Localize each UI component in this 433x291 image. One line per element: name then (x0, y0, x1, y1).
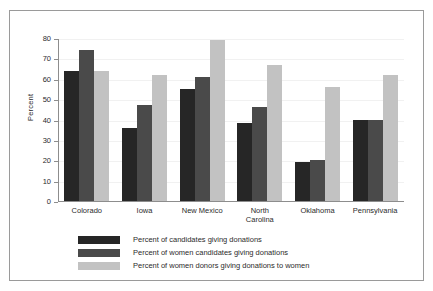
legend-label: Percent of women donors giving donations… (133, 262, 309, 270)
bar[interactable] (180, 89, 195, 201)
legend-item[interactable]: Percent of women donors giving donations… (78, 259, 309, 272)
bar-group: Iowa (116, 38, 174, 201)
legend-label: Percent of women candidates giving donat… (133, 249, 288, 257)
bar[interactable] (267, 65, 282, 202)
bar-group: Oklahoma (289, 38, 347, 201)
y-axis-title: Percent (26, 94, 35, 121)
legend-item[interactable]: Percent of candidates giving donations (78, 233, 309, 246)
y-tick-label: 60 (43, 76, 51, 84)
bar-group-bars (346, 38, 404, 201)
bar[interactable] (210, 40, 225, 201)
y-tick-label: 70 (43, 56, 51, 64)
bar[interactable] (353, 120, 368, 202)
bar[interactable] (122, 128, 137, 201)
y-tick-label: 30 (43, 137, 51, 145)
bar[interactable] (195, 77, 210, 201)
chart-figure: Percent 01020304050607080 ColoradoIowaNe… (9, 10, 424, 281)
bar-group-bars (289, 38, 347, 201)
legend-swatch (78, 249, 120, 257)
x-tick-label: Pennsylvania (353, 206, 398, 215)
bar[interactable] (152, 75, 167, 201)
legend-swatch (78, 262, 120, 270)
bar[interactable] (310, 160, 325, 201)
bar-group-bars (173, 38, 231, 201)
x-tick-label: New Mexico (182, 206, 223, 215)
x-tick-label: NorthCarolina (246, 206, 274, 224)
bar[interactable] (368, 120, 383, 202)
bar[interactable] (79, 50, 94, 201)
bar[interactable] (137, 105, 152, 201)
bar-group: NorthCarolina (231, 38, 289, 201)
legend-item[interactable]: Percent of women candidates giving donat… (78, 246, 309, 259)
bar-group-bars (231, 38, 289, 201)
bar[interactable] (325, 87, 340, 201)
bar[interactable] (94, 71, 109, 201)
y-tick-mark (54, 202, 58, 203)
bar[interactable] (252, 107, 267, 201)
bar-group: Pennsylvania (346, 38, 404, 201)
bar[interactable] (237, 123, 252, 201)
y-tick-label: 0 (47, 198, 51, 206)
y-tick-label: 10 (43, 178, 51, 186)
y-tick-label: 80 (43, 35, 51, 43)
x-tick-label: Oklahoma (300, 206, 334, 215)
y-tick-label: 50 (43, 96, 51, 104)
y-tick-label: 20 (43, 158, 51, 166)
chart-legend: Percent of candidates giving donationsPe… (78, 233, 309, 272)
bar-group: Colorado (58, 38, 116, 201)
y-tick-label: 40 (43, 117, 51, 125)
plot-area: 01020304050607080 ColoradoIowaNew Mexico… (58, 39, 404, 202)
x-axis-line (58, 201, 404, 202)
bar-group-bars (116, 38, 174, 201)
bar[interactable] (295, 162, 310, 201)
bar[interactable] (64, 71, 79, 201)
x-tick-label: Iowa (137, 206, 153, 215)
bar-group-bars (58, 38, 116, 201)
x-tick-label: Colorado (72, 206, 102, 215)
legend-swatch (78, 236, 120, 244)
legend-label: Percent of candidates giving donations (133, 236, 262, 244)
bar-group: New Mexico (173, 38, 231, 201)
bar[interactable] (383, 75, 398, 201)
